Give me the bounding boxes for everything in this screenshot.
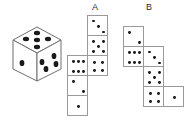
pip	[82, 90, 85, 93]
pip	[133, 51, 136, 54]
pip	[128, 61, 131, 64]
dice-nets-figure: A B	[0, 0, 193, 124]
pip	[138, 51, 141, 54]
pip	[77, 70, 80, 73]
pip	[148, 81, 151, 84]
pip	[148, 51, 151, 54]
pip	[157, 100, 160, 103]
net-face	[67, 95, 88, 116]
die-front-left-pips	[20, 60, 25, 66]
pip	[149, 92, 152, 95]
pip	[92, 50, 95, 53]
pip	[82, 60, 85, 63]
pip	[148, 71, 151, 74]
pip	[133, 61, 136, 64]
net-face	[163, 86, 184, 107]
pip	[77, 60, 80, 63]
pip	[138, 41, 141, 44]
net-face	[87, 35, 108, 56]
pip	[149, 100, 152, 103]
net-face	[123, 26, 144, 47]
net-face	[67, 75, 88, 96]
pip	[157, 92, 160, 95]
isometric-die	[11, 26, 63, 88]
net-face	[87, 55, 108, 76]
pip	[128, 51, 131, 54]
pip	[173, 96, 176, 99]
pip	[101, 69, 104, 72]
pip	[97, 25, 100, 28]
net-a	[67, 15, 115, 121]
pip	[93, 69, 96, 72]
pip	[153, 56, 156, 59]
pip	[101, 61, 104, 64]
pip	[92, 40, 95, 43]
pip	[128, 31, 131, 34]
pip	[138, 61, 141, 64]
net-face	[143, 66, 164, 87]
pip	[153, 76, 156, 79]
pip	[102, 50, 105, 53]
net-b	[123, 26, 193, 112]
net-b-label: B	[142, 3, 156, 12]
pip	[72, 60, 75, 63]
pip	[102, 31, 105, 34]
pip	[158, 81, 161, 84]
pip	[93, 61, 96, 64]
net-a-label: A	[88, 3, 102, 12]
pip	[72, 70, 75, 73]
pip	[102, 40, 105, 43]
net-face	[143, 46, 164, 67]
pip	[77, 105, 80, 108]
net-face	[143, 86, 164, 107]
pip	[97, 45, 100, 48]
net-face	[87, 15, 108, 36]
pip	[158, 71, 161, 74]
pip	[158, 62, 161, 65]
pip	[82, 70, 85, 73]
pip	[92, 20, 95, 23]
net-face	[67, 55, 88, 76]
net-face	[123, 46, 144, 67]
pip	[72, 80, 75, 83]
